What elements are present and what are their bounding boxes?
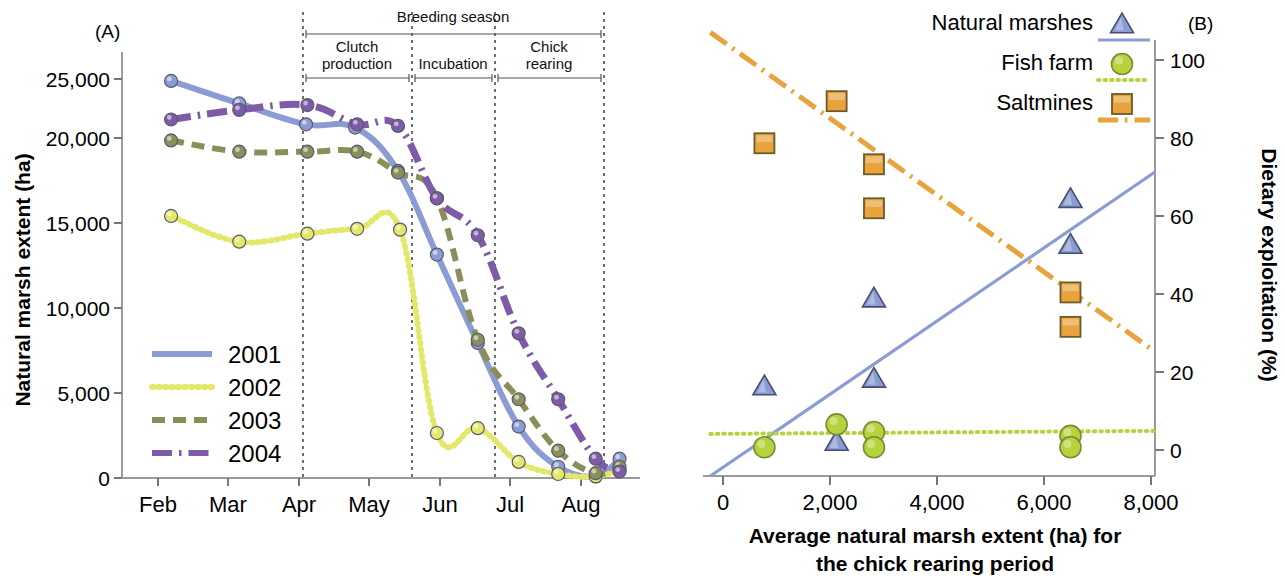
panel-a-xtick-jul: Jul	[496, 492, 524, 517]
figure-root: Natural marsh extent (ha) (A) 0 5,000 10…	[0, 0, 1285, 579]
legend-marker-natural-marshes	[1111, 13, 1134, 33]
panel-b-legend: Natural marshesFish farmSaltmines	[932, 10, 1150, 120]
annotation-clutch-production-line2: production	[322, 55, 392, 72]
panel-a-y-ticks: 0 5,000 10,000 15,000 20,000 25,000	[46, 68, 122, 490]
data-point	[471, 229, 484, 242]
data-point-Fish farm	[754, 437, 775, 458]
data-point	[430, 426, 443, 439]
panel-a-ytick-10000: 10,000	[46, 297, 110, 320]
data-point	[552, 467, 565, 480]
data-point-Natural marshes	[862, 287, 885, 307]
legend-item-2002[interactable]: 2002	[152, 374, 281, 401]
data-point	[165, 113, 178, 126]
data-point	[301, 227, 314, 240]
panel-b-xtick-4000: 4,000	[909, 490, 964, 515]
data-point	[552, 393, 565, 406]
legend-item-2004[interactable]: 2004	[152, 440, 281, 467]
data-point	[512, 420, 525, 433]
panel-a-ytick-5000: 5,000	[57, 382, 110, 405]
legend-item-saltmines[interactable]: Saltmines	[996, 90, 1150, 120]
legend-label-2001: 2001	[228, 341, 281, 368]
panel-a-ytick-0: 0	[98, 467, 110, 490]
legend-item-natural-marshes[interactable]: Natural marshes	[932, 10, 1150, 40]
data-point	[512, 455, 525, 468]
data-point-Saltmines	[827, 91, 847, 111]
data-point-Saltmines	[864, 154, 884, 174]
data-point	[392, 119, 405, 132]
annotation-chick-rearing-line1: Chick	[530, 38, 568, 55]
data-point-Natural marshes	[1059, 188, 1082, 208]
data-point	[392, 166, 405, 179]
panel-a-x-ticks: Feb Mar Apr May Jun Jul Aug	[139, 478, 601, 517]
data-point	[233, 103, 246, 116]
data-point	[351, 222, 364, 235]
data-point	[394, 223, 407, 236]
panel-b-ytick-60: 60	[1170, 205, 1193, 228]
annotation-incubation: Incubation	[418, 55, 487, 72]
panel-a-ytick-15000: 15,000	[46, 212, 110, 235]
panel-a-label: (A)	[95, 21, 120, 42]
data-point	[165, 74, 178, 87]
data-point-Fish farm	[826, 414, 847, 435]
panel-b-xtick-2000: 2,000	[802, 490, 857, 515]
annotation-clutch-production-line1: Clutch	[336, 38, 379, 55]
panel-b-ylabel: Dietary exploitation (%)	[1258, 148, 1281, 381]
annotation-chick-rearing-line2: rearing	[526, 55, 573, 72]
data-point-Fish farm	[863, 437, 884, 458]
data-point	[589, 452, 602, 465]
panel-b: (B) 0 20 40 60 80 100	[703, 10, 1281, 575]
data-point	[300, 118, 313, 131]
panel-a-xtick-may: May	[348, 492, 390, 517]
data-point-Saltmines	[1060, 282, 1080, 302]
data-point	[430, 192, 443, 205]
legend-label-natural-marshes: Natural marshes	[932, 10, 1093, 35]
panel-a-annotations: Breeding season Clutch production Incuba…	[306, 8, 601, 82]
data-point-Saltmines	[754, 133, 774, 153]
trendline-Saltmines	[710, 32, 1155, 351]
legend-label-fish-farm: Fish farm	[1001, 50, 1093, 75]
legend-label-2004: 2004	[228, 440, 281, 467]
panel-a-xtick-aug: Aug	[561, 492, 600, 517]
legend-label-saltmines: Saltmines	[996, 90, 1093, 115]
panel-b-x-ticks: 0 2,000 4,000 6,000 8,000	[717, 476, 1179, 515]
panel-a-xtick-jun: Jun	[422, 492, 457, 517]
panel-b-xtick-8000: 8,000	[1123, 490, 1178, 515]
data-point	[589, 467, 602, 480]
legend-item-2003[interactable]: 2003	[152, 407, 281, 434]
data-point	[351, 145, 364, 158]
panel-b-ytick-0: 0	[1170, 439, 1182, 462]
data-point	[233, 235, 246, 248]
panel-a-ytick-20000: 20,000	[46, 127, 110, 150]
panel-a-xtick-feb: Feb	[139, 492, 177, 517]
legend-marker-fish-farm	[1112, 54, 1133, 75]
panel-a-ylabel: Natural marsh extent (ha)	[11, 153, 34, 406]
panel-a: Natural marsh extent (ha) (A) 0 5,000 10…	[11, 8, 640, 517]
legend-item-2001[interactable]: 2001	[152, 341, 281, 368]
legend-label-2002: 2002	[228, 374, 281, 401]
panel-b-xlabel-line1: Average natural marsh extent (ha) for	[749, 524, 1122, 547]
data-point	[165, 134, 178, 147]
panel-b-ytick-20: 20	[1170, 361, 1193, 384]
data-point-Natural marshes	[753, 375, 776, 395]
annotation-breeding-season: Breeding season	[397, 8, 510, 25]
panel-a-legend: 2001200220032004	[152, 341, 281, 467]
data-point	[301, 99, 314, 112]
panel-b-ytick-40: 40	[1170, 283, 1193, 306]
data-point	[351, 118, 364, 131]
panel-b-ytick-100: 100	[1170, 49, 1205, 72]
panel-b-xtick-6000: 6,000	[1016, 490, 1071, 515]
panel-b-label: (B)	[1188, 13, 1213, 34]
panel-b-xlabel-line2: the chick rearing period	[816, 552, 1054, 575]
panel-b-y-ticks: 0 20 40 60 80 100	[1155, 49, 1205, 462]
data-point	[430, 248, 443, 261]
data-point-Saltmines	[864, 198, 884, 218]
panel-a-xtick-mar: Mar	[209, 492, 247, 517]
panel-a-ytick-25000: 25,000	[46, 68, 110, 91]
panel-a-xtick-apr: Apr	[282, 492, 316, 517]
data-point	[233, 145, 246, 158]
data-point	[552, 444, 565, 457]
scientific-figure: Natural marsh extent (ha) (A) 0 5,000 10…	[0, 0, 1285, 579]
legend-label-2003: 2003	[228, 407, 281, 434]
data-point	[613, 465, 626, 478]
legend-item-fish-farm[interactable]: Fish farm	[1001, 50, 1150, 80]
